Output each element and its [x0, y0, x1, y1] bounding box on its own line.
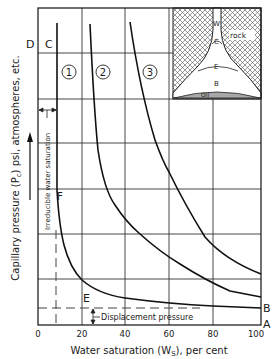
svg-text:100: 100	[248, 329, 264, 339]
irreducible-annotation	[39, 108, 56, 118]
x-axis-label: Water saturation (WS), per cent	[70, 345, 227, 358]
curve-labels: 1 2 3	[62, 65, 157, 79]
inset-label-oil: Oil	[201, 91, 209, 98]
inset-label-rock: rock	[230, 31, 247, 40]
point-label-f: F	[57, 191, 63, 202]
point-label-b: B	[263, 302, 271, 315]
y-arrow-icon	[27, 132, 33, 200]
curve-label-3: 3	[147, 67, 153, 78]
svg-text:60: 60	[164, 329, 175, 339]
pore-inset-diagram: W C E B Oil rock	[173, 8, 261, 99]
inset-label-b: B	[214, 80, 219, 88]
curve-label-2: 2	[100, 67, 106, 78]
guide-lines	[38, 230, 200, 325]
inset-label-e: E	[214, 63, 218, 71]
curve-label-1: 1	[66, 67, 72, 78]
svg-text:20: 20	[77, 329, 88, 339]
irreducible-label: Irreducible water saturation	[44, 133, 52, 230]
displacement-label: Displacement pressure	[101, 313, 193, 322]
svg-text:80: 80	[208, 329, 219, 339]
displacement-annotation	[91, 309, 100, 324]
point-label-e: E	[83, 292, 90, 305]
inset-label-w: W	[213, 20, 220, 28]
point-label-c: C	[45, 38, 53, 51]
capillary-pressure-chart: W C E B Oil rock 1 2 3 D C F E B A Irred…	[0, 0, 274, 359]
svg-text:0: 0	[35, 329, 40, 339]
svg-text:40: 40	[120, 329, 131, 339]
x-tick-labels: 0 20 40 60 80 100	[35, 329, 264, 339]
inset-label-c: C	[214, 38, 219, 46]
y-axis-label: Capillary pressure (Pc) psi, atmospheres…	[10, 55, 23, 280]
point-label-d: D	[26, 38, 34, 51]
point-label-a: A	[263, 318, 271, 331]
